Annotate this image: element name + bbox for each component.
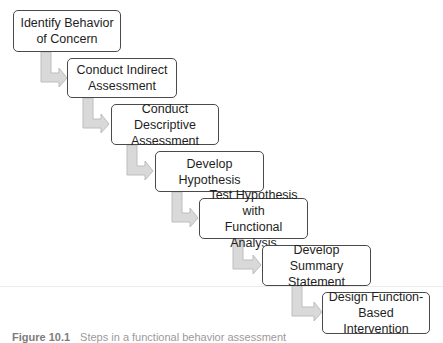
step-label-line: Based Intervention bbox=[343, 306, 408, 336]
elbow-arrow-icon bbox=[126, 145, 158, 181]
step-summary-statement: Develop SummaryStatement bbox=[262, 245, 371, 286]
step-label-line: Conduct Indirect bbox=[76, 63, 167, 77]
step-label-line: Test Hypothesis with bbox=[209, 188, 297, 218]
step-label-line: Statement bbox=[288, 275, 345, 289]
figure-caption: Figure 10.1Steps in a functional behavio… bbox=[12, 331, 286, 343]
step-indirect-assessment: Conduct IndirectAssessment bbox=[67, 58, 177, 98]
step-test-hypothesis: Test Hypothesis withFunctional Analysis bbox=[199, 198, 308, 239]
step-identify-behavior: Identify Behaviorof Concern bbox=[13, 10, 121, 52]
step-label-line: Design Function- bbox=[329, 290, 424, 304]
step-design-intervention: Design Function-Based Intervention bbox=[322, 292, 430, 334]
step-label-line: Develop Summary bbox=[290, 243, 343, 273]
elbow-arrow-icon bbox=[82, 98, 114, 134]
step-label-line: Assessment bbox=[131, 134, 199, 148]
step-label-line: of Concern bbox=[36, 32, 97, 46]
figure-number: Figure 10.1 bbox=[12, 331, 70, 343]
step-label-line: Identify Behavior bbox=[20, 16, 113, 30]
step-label-line: Conduct Descriptive bbox=[134, 102, 196, 132]
page-divider bbox=[0, 286, 443, 287]
step-label-line: Assessment bbox=[88, 79, 156, 93]
step-label-line: Hypothesis bbox=[179, 173, 241, 187]
step-label-line: Develop bbox=[187, 157, 233, 171]
step-descriptive-assessment: Conduct DescriptiveAssessment bbox=[111, 104, 219, 145]
figure-caption-text: Steps in a functional behavior assessmen… bbox=[80, 331, 286, 343]
